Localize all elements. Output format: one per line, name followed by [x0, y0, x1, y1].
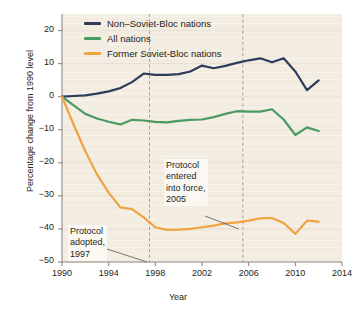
annotation-adopted-line2: adopted,	[70, 237, 105, 248]
legend-item-all-nations[interactable]: All nations	[84, 31, 222, 46]
x-tick-label-6: 2014	[322, 269, 356, 278]
y-tick-label-0: 20	[24, 25, 54, 34]
leader-line-adopted	[104, 248, 147, 262]
annotation-force-line3: into force,	[166, 183, 206, 194]
chart-figure: Non–Soviet-Bloc nations All nations Form…	[0, 0, 356, 312]
x-tick-label-0: 1990	[42, 269, 82, 278]
annotation-force-line4: 2005	[166, 194, 206, 205]
x-tick-label-5: 2010	[275, 269, 315, 278]
legend-label-all-nations: All nations	[107, 33, 151, 44]
legend-swatch-green	[84, 37, 101, 40]
chart-legend: Non–Soviet-Bloc nations All nations Form…	[84, 16, 222, 61]
annotation-leader-lines	[104, 216, 239, 262]
legend-label-non-soviet-bloc: Non–Soviet-Bloc nations	[107, 18, 211, 29]
legend-item-former-soviet-bloc[interactable]: Former Soviet-Bloc nations	[84, 46, 222, 61]
annotation-force-line2: entered	[166, 171, 206, 182]
data-series-group	[62, 58, 319, 234]
series-line-0	[62, 58, 319, 96]
y-axis-title: Percentage change from 1990 level	[25, 41, 35, 201]
x-axis-title: Year	[0, 292, 356, 302]
x-tick-label-2: 1998	[135, 269, 175, 278]
legend-label-former-soviet-bloc: Former Soviet-Bloc nations	[107, 48, 222, 59]
series-line-1	[62, 97, 319, 135]
y-tick-label-6: −40	[24, 223, 54, 232]
y-tick-label-7: −50	[24, 256, 54, 265]
annotation-protocol-adopted: Protocol adopted, 1997	[68, 225, 107, 261]
legend-item-non-soviet-bloc[interactable]: Non–Soviet-Bloc nations	[84, 16, 222, 31]
annotation-protocol-entered-force: Protocol entered into force, 2005	[164, 159, 208, 206]
x-tick-label-3: 2002	[182, 269, 222, 278]
x-tick-label-1: 1994	[89, 269, 129, 278]
legend-swatch-navy	[84, 22, 101, 25]
x-tick-label-4: 2006	[229, 269, 269, 278]
annotation-force-line1: Protocol	[166, 160, 206, 171]
annotation-adopted-line3: 1997	[70, 249, 105, 260]
annotation-adopted-line1: Protocol	[70, 226, 105, 237]
legend-swatch-orange	[84, 52, 101, 55]
